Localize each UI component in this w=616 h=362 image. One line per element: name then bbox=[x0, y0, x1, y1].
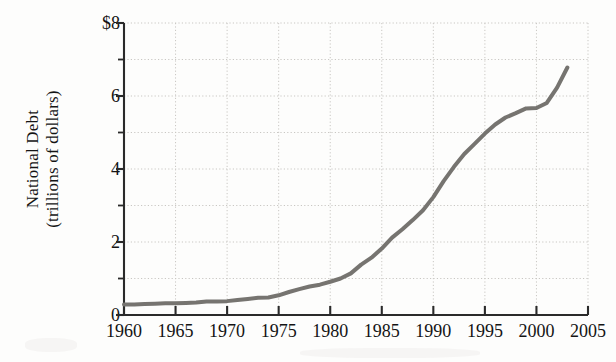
plot-area bbox=[0, 0, 616, 362]
data-series bbox=[124, 68, 567, 305]
series-line-0 bbox=[124, 68, 567, 305]
chart-figure: National Debt (trillions of dollars) 024… bbox=[0, 0, 616, 362]
